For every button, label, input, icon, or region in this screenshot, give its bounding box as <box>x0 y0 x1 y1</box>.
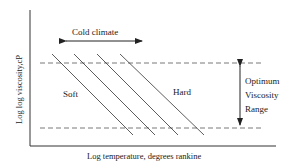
range-label-line-1: Optimum <box>245 76 280 86</box>
grade-line-3 <box>97 54 178 135</box>
range-label-line-2: Viscosity <box>245 90 279 100</box>
grade-line-2 <box>74 54 155 135</box>
grade-line-4 <box>120 54 204 135</box>
soft-label: Soft <box>63 89 79 99</box>
range-label-line-3: Range <box>245 104 268 114</box>
y-axis-label: Log log viscosity,cP <box>14 55 24 124</box>
viscosity-temperature-diagram: Cold climate Soft Hard Optimum Viscosity… <box>0 0 295 168</box>
cold-climate-label: Cold climate <box>72 27 118 37</box>
hard-label: Hard <box>173 87 191 97</box>
x-axis-label: Log temperature, degrees rankine <box>87 151 201 161</box>
